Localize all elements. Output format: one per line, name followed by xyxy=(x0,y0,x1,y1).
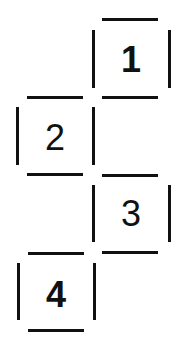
cell-3-top-border xyxy=(102,174,158,177)
cell-4-label: 4 xyxy=(17,277,95,313)
cell-3: 3 xyxy=(92,174,170,252)
cell-4-top-border xyxy=(28,252,84,255)
cell-1-top-border xyxy=(102,18,158,21)
cell-1-bottom-border xyxy=(102,96,158,99)
cell-3-label: 3 xyxy=(92,196,170,232)
cell-2: 2 xyxy=(16,96,94,174)
cell-2-label: 2 xyxy=(16,120,94,156)
cell-2-top-border xyxy=(27,96,83,99)
cell-4: 4 xyxy=(17,252,95,330)
cell-1-label: 1 xyxy=(92,42,170,78)
cell-2-bottom-border xyxy=(27,173,83,176)
cell-1: 1 xyxy=(92,18,170,96)
cell-3-bottom-border xyxy=(102,251,158,254)
cell-4-bottom-border xyxy=(28,329,84,332)
